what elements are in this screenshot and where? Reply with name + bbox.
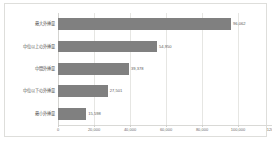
- bar-row: 最小外挿量15,598: [58, 103, 272, 125]
- bar[interactable]: [58, 108, 86, 120]
- bar-value-label: 96,062: [231, 18, 246, 30]
- x-tick-label: 60,000: [160, 127, 172, 132]
- bar[interactable]: [58, 85, 108, 97]
- x-tick-label: 20,000: [88, 127, 100, 132]
- bar-row: 中間外挿量39,378: [58, 58, 272, 80]
- chart-frame: 最大外挿量96,062中位以上の外挿量54,950中間外挿量39,378中位以下…: [4, 3, 267, 137]
- x-tick-label: 120,000: [267, 127, 272, 132]
- bar-row: 中位以下の外挿量27,501: [58, 80, 272, 102]
- bar-row: 中位以上の外挿量54,950: [58, 35, 272, 57]
- category-label: 最大外挿量: [35, 18, 55, 30]
- x-tick-label: 80,000: [196, 127, 208, 132]
- bar-value-label: 15,598: [86, 108, 101, 120]
- category-label: 中間外挿量: [35, 63, 55, 75]
- bar[interactable]: [58, 18, 231, 30]
- category-label: 最小外挿量: [35, 108, 55, 120]
- bar[interactable]: [58, 41, 157, 53]
- bar-value-label: 54,950: [157, 41, 172, 53]
- bar-value-label: 27,501: [108, 85, 123, 97]
- category-label: 中位以下の外挿量: [23, 85, 55, 97]
- bar-row: 最大外挿量96,062: [58, 13, 272, 35]
- x-tick-label: 40,000: [124, 127, 136, 132]
- x-axis-ticks: 020,00040,00060,00080,000100,000120,000: [58, 127, 272, 136]
- x-tick-label: 0: [57, 127, 59, 132]
- bar[interactable]: [58, 63, 129, 75]
- bar-rows: 最大外挿量96,062中位以上の外挿量54,950中間外挿量39,378中位以下…: [58, 13, 272, 125]
- bar-value-label: 39,378: [129, 63, 144, 75]
- chart-screenshot: 最大外挿量96,062中位以上の外挿量54,950中間外挿量39,378中位以下…: [0, 0, 272, 146]
- x-axis-baseline: [58, 125, 272, 126]
- x-tick-label: 100,000: [231, 127, 245, 132]
- category-label: 中位以上の外挿量: [23, 41, 55, 53]
- plot-area: 最大外挿量96,062中位以上の外挿量54,950中間外挿量39,378中位以下…: [58, 13, 272, 125]
